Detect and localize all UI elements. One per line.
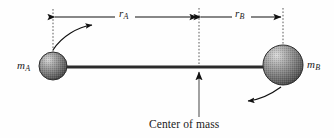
distance-b-label: rB: [235, 8, 244, 21]
distance-a-label: rA: [119, 8, 128, 21]
mass-b-label: mB: [307, 59, 320, 72]
sphere-mass-b: [263, 45, 303, 85]
rotation-arrow-a-icon: [53, 25, 92, 50]
sphere-mass-a: [39, 52, 67, 80]
physics-figure-center-of-mass: mA mB rA rB Center of mass: [0, 0, 334, 138]
mass-a-label: mA: [17, 60, 30, 73]
rotation-arrow-b-icon: [248, 87, 281, 101]
center-of-mass-caption: Center of mass: [149, 119, 219, 131]
